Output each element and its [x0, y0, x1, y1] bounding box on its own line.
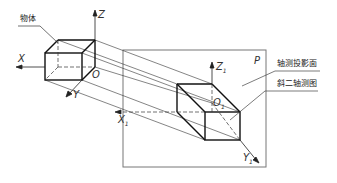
projection-plane-frame — [123, 50, 266, 167]
axis-z-label: Z — [98, 10, 105, 20]
axis-y-label: Y — [73, 90, 79, 100]
axis-y1-label: Y1 — [243, 153, 253, 165]
origin-o1-label: O1 — [213, 98, 225, 110]
object-label: 物体 — [20, 15, 36, 23]
diagram-canvas — [0, 0, 337, 183]
object-cube — [45, 40, 95, 80]
origin-o-label: O — [92, 70, 100, 80]
axis-x1-label: X1 — [118, 115, 129, 127]
projection-plane-label: 轴测投影面 — [277, 60, 317, 68]
object-leader — [18, 26, 58, 43]
plane-p-label: P — [254, 56, 260, 66]
oblique-drawing-label: 斜二轴测图 — [277, 80, 317, 88]
axis-z1-label: Z1 — [216, 62, 227, 74]
axis-x-label: X — [18, 54, 25, 64]
